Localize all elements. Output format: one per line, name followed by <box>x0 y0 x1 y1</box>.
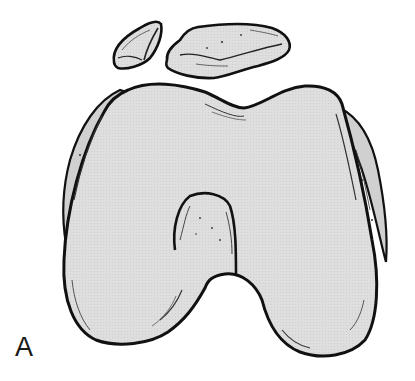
bone-illustration <box>0 0 415 381</box>
small-bone-fragment <box>114 22 162 69</box>
femoral-condyles <box>64 84 377 356</box>
patella-fragment <box>166 24 289 78</box>
figure-label: A <box>15 334 33 361</box>
